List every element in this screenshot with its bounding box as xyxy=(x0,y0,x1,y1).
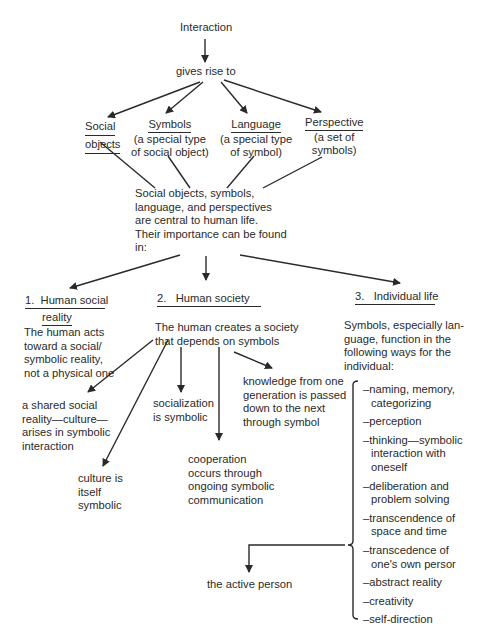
outcome-shared-reality: a shared social reality—culture— arises … xyxy=(22,399,110,453)
individual-functions-list: –naming, memory,categorizing –perception… xyxy=(363,383,463,632)
node-active-person: the active person xyxy=(207,578,292,592)
function-item: –naming, memory,categorizing xyxy=(363,383,463,410)
function-item: –self-direction xyxy=(363,613,463,627)
function-item: –creativity xyxy=(363,595,463,609)
section-3-description: Symbols, especially lan- guage, function… xyxy=(344,319,464,373)
function-item: –deliberation andproblem solving xyxy=(363,480,463,507)
section-human-social-reality: 1. Human social reality xyxy=(25,292,105,326)
node-interaction: Interaction xyxy=(180,21,232,35)
function-item: –thinking—symbolicinteraction withonesel… xyxy=(363,434,463,475)
section-human-society: 2. Human society xyxy=(157,292,261,307)
outcome-knowledge: knowledge from one generation is passed … xyxy=(243,375,346,429)
outcome-culture-symbolic: culture is itself symbolic xyxy=(78,472,123,513)
outcome-socialization: socialization is symbolic xyxy=(153,397,214,424)
concept-social-objects: Social objects xyxy=(85,118,120,154)
outcome-cooperation: cooperation occurs through ongoing symbo… xyxy=(188,453,274,507)
concept-perspective: Perspective (a set of symbols) xyxy=(305,116,363,158)
central-statement: Social objects, symbols, language, and p… xyxy=(135,187,287,255)
node-gives-rise: gives rise to xyxy=(176,65,236,79)
concept-symbols: Symbols (a special type of social object… xyxy=(131,118,209,160)
section-individual-life: 3. Individual life xyxy=(355,290,435,305)
function-item: –transcedence ofone's own persor xyxy=(363,544,463,571)
function-item: –transcendence ofspace and time xyxy=(363,512,463,539)
section-2-description: The human creates a society that depends… xyxy=(155,321,299,348)
section-1-description: The human acts toward a social/ symbolic… xyxy=(24,326,114,380)
concept-language: Language (a special type of symbol) xyxy=(220,118,292,160)
function-item: –perception xyxy=(363,415,463,429)
function-item: –abstract reality xyxy=(363,576,463,590)
